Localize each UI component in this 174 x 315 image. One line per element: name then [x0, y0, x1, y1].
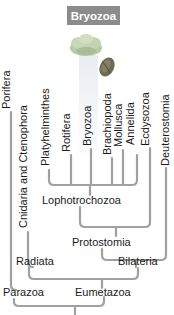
- taxon-label-ecdysozoa: Ecdysozoa: [139, 92, 151, 146]
- taxon-label-mollusca: Mollusca: [112, 104, 124, 147]
- taxon-label-rotifera: Rotifera: [60, 113, 72, 152]
- taxon-label-porifera: Porifera: [0, 70, 12, 109]
- taxon-label-bryozoa: Bryozoa: [81, 106, 93, 146]
- taxon-label-platyhelminthes: Platyhelminthes: [39, 88, 51, 166]
- clade-label-eumetazoa: Eumetazoa: [75, 286, 131, 298]
- clade-label-protostomia: Protostomia: [72, 236, 131, 248]
- clade-label-lophotrochozoa: Lophotrochozoa: [42, 194, 121, 206]
- taxon-label-cnidaria-ctenophora: Cnidaria and Ctenophora: [17, 105, 29, 228]
- clade-label-bilateria: Bilateria: [118, 255, 158, 267]
- clade-label-radiata: Radiata: [16, 255, 54, 267]
- clade-label-parazoa: Parazoa: [3, 286, 44, 298]
- taxon-label-annelida: Annelida: [124, 102, 136, 145]
- taxon-label-deuterostomia: Deuterostomia: [159, 94, 171, 166]
